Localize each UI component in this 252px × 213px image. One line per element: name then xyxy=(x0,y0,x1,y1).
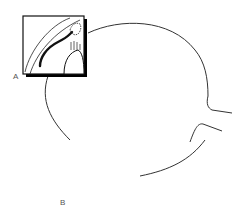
inset-a xyxy=(23,16,87,77)
inset-a-label: A xyxy=(13,72,18,81)
globe-outline-left xyxy=(45,76,70,140)
inset-b-label: B xyxy=(60,198,65,207)
globe-outline-lower xyxy=(140,140,205,176)
globe-outline xyxy=(88,23,208,96)
optic-nerve-upper xyxy=(207,96,232,113)
optic-nerve-lower xyxy=(190,124,222,142)
eye-diagram xyxy=(0,0,252,213)
